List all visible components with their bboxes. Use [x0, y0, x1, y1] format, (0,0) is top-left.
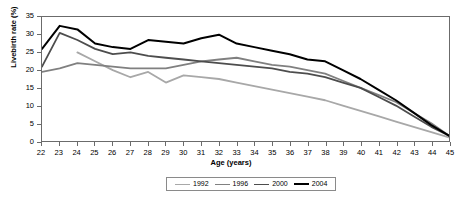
legend-swatch-1992 — [175, 184, 190, 185]
y-tick-label: 10 — [26, 102, 34, 110]
x-tick-mark — [183, 142, 184, 146]
legend-label: 1992 — [193, 180, 209, 188]
x-axis-title: Age (years) — [0, 158, 462, 167]
x-tick-mark — [130, 142, 131, 146]
x-tick-mark — [219, 142, 220, 146]
x-tick-mark — [254, 142, 255, 146]
legend-label: 2004 — [312, 180, 328, 188]
x-tick-mark — [432, 142, 433, 146]
x-tick-mark — [414, 142, 415, 146]
x-tick-mark — [379, 142, 380, 146]
x-tick-mark — [59, 142, 60, 146]
y-tick-label: 5 — [30, 120, 34, 128]
legend-label: 1996 — [233, 180, 249, 188]
x-tick-mark — [41, 142, 42, 146]
x-tick-mark — [77, 142, 78, 146]
series-lines — [42, 17, 449, 141]
y-tick-label: 25 — [26, 48, 34, 56]
x-tick-mark — [112, 142, 113, 146]
x-tick-mark — [326, 142, 327, 146]
x-tick-mark — [201, 142, 202, 146]
x-tick-mark — [272, 142, 273, 146]
y-tick-label: 20 — [26, 66, 34, 74]
legend-swatch-1996 — [215, 184, 230, 185]
series-line-1996 — [42, 58, 449, 136]
x-tick-mark — [237, 142, 238, 146]
x-tick-mark — [343, 142, 344, 146]
x-tick-mark — [148, 142, 149, 146]
legend-swatch-2004 — [294, 183, 309, 185]
y-tick-label: 35 — [26, 12, 34, 20]
y-tick-label: 0 — [30, 138, 34, 146]
x-tick-mark — [94, 142, 95, 146]
legend-swatch-2000 — [254, 184, 269, 185]
x-tick-mark — [450, 142, 451, 146]
x-tick-label: 45 — [439, 148, 461, 157]
x-tick-mark — [397, 142, 398, 146]
y-tick-label: 15 — [26, 84, 34, 92]
series-line-1992 — [77, 52, 449, 137]
x-tick-mark — [290, 142, 291, 146]
chart-figure: Livebirth rate (%) 05101520253035 222324… — [0, 0, 462, 200]
legend-label: 2000 — [272, 180, 288, 188]
x-tick-mark — [361, 142, 362, 146]
chart-legend: 1992199620002004 — [166, 177, 336, 191]
y-axis-labels: 05101520253035 — [0, 0, 41, 143]
x-tick-mark — [165, 142, 166, 146]
legend-item-1992[interactable]: 1992 — [172, 180, 212, 188]
legend-item-2000[interactable]: 2000 — [251, 180, 291, 188]
y-tick-label: 30 — [26, 30, 34, 38]
x-tick-mark — [308, 142, 309, 146]
legend-item-2004[interactable]: 2004 — [291, 180, 331, 188]
legend-item-1996[interactable]: 1996 — [212, 180, 252, 188]
plot-area — [41, 16, 450, 142]
